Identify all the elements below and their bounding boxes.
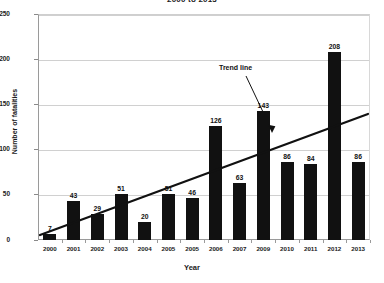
y-tick-mark — [34, 240, 38, 241]
bar-2001 — [67, 201, 80, 240]
x-tick-label-2006: 2006 — [203, 245, 229, 252]
x-tick-label-2012: 2012 — [321, 245, 347, 252]
x-tick-label-2010: 2010 — [274, 245, 300, 252]
x-tick-mark — [299, 240, 300, 243]
bar-value-label: 143 — [250, 102, 276, 109]
x-tick-label-2013: 2013 — [345, 245, 371, 252]
x-tick-mark — [228, 240, 229, 243]
y-tick-label-200: 200 — [0, 55, 10, 62]
y-tick-mark — [34, 149, 38, 150]
x-tick-label-2004: 2004 — [132, 245, 158, 252]
x-tick-mark — [157, 240, 158, 243]
x-tick-mark — [133, 240, 134, 243]
bar-value-label: 51 — [155, 185, 181, 192]
x-tick-mark — [204, 240, 205, 243]
bar-2005 — [186, 198, 199, 240]
bar-value-label: 51 — [108, 185, 134, 192]
x-tick-mark — [323, 240, 324, 243]
gridline — [39, 150, 369, 151]
bar-2003 — [115, 194, 128, 240]
x-tick-mark — [346, 240, 347, 243]
bar-value-label: 126 — [203, 117, 229, 124]
x-tick-label-2005: 2005 — [155, 245, 181, 252]
y-axis-label: Number of fatalities — [11, 62, 18, 182]
x-tick-mark — [62, 240, 63, 243]
bar-value-label: 43 — [61, 192, 87, 199]
x-tick-label-2007: 2007 — [227, 245, 253, 252]
bar-2013 — [352, 162, 365, 240]
bar-2000 — [43, 234, 56, 240]
bar-2010 — [281, 162, 294, 240]
y-tick-label-250: 250 — [0, 10, 10, 17]
bar-2005 — [162, 194, 175, 240]
gridline — [39, 105, 369, 106]
x-tick-label-2000: 2000 — [37, 245, 63, 252]
bar-2004 — [138, 222, 151, 240]
bar-value-label: 84 — [298, 155, 324, 162]
y-tick-label-0: 0 — [0, 236, 10, 243]
x-tick-label-2005: 2005 — [179, 245, 205, 252]
bar-2006 — [209, 126, 222, 240]
gridline — [39, 15, 369, 16]
x-tick-label-2001: 2001 — [61, 245, 87, 252]
bar-value-label: 63 — [227, 174, 253, 181]
bar-value-label: 86 — [274, 153, 300, 160]
bar-value-label: 208 — [321, 43, 347, 50]
x-tick-mark — [251, 240, 252, 243]
y-tick-label-50: 50 — [0, 190, 10, 197]
gridline — [39, 60, 369, 61]
x-tick-label-2011: 2011 — [298, 245, 324, 252]
y-tick-label-100: 100 — [0, 145, 10, 152]
chart-title: 2000 to 2013 — [0, 0, 384, 3]
bar-2009 — [257, 111, 270, 240]
y-tick-mark — [34, 194, 38, 195]
bar-2011 — [304, 164, 317, 240]
x-tick-mark — [109, 240, 110, 243]
y-tick-label-150: 150 — [0, 100, 10, 107]
bar-value-label: 7 — [37, 225, 63, 232]
x-tick-label-2009: 2009 — [250, 245, 276, 252]
x-tick-mark — [85, 240, 86, 243]
bar-value-label: 86 — [345, 153, 371, 160]
y-tick-mark — [34, 104, 38, 105]
y-tick-mark — [34, 59, 38, 60]
x-tick-mark — [180, 240, 181, 243]
bar-2007 — [233, 183, 246, 240]
bar-value-label: 29 — [84, 205, 110, 212]
x-axis-label: Year — [0, 263, 384, 272]
bar-value-label: 20 — [132, 213, 158, 220]
x-tick-mark — [370, 240, 371, 243]
bar-value-label: 46 — [179, 189, 205, 196]
fatalities-bar-chart: 2000 to 2013 Number of fatalities Year 0… — [0, 0, 384, 283]
x-tick-mark — [275, 240, 276, 243]
x-tick-label-2003: 2003 — [108, 245, 134, 252]
y-tick-mark — [34, 14, 38, 15]
bar-2002 — [91, 214, 104, 240]
bar-2012 — [328, 52, 341, 240]
trend-line-annotation: Trend line — [219, 64, 252, 71]
x-tick-label-2002: 2002 — [84, 245, 110, 252]
